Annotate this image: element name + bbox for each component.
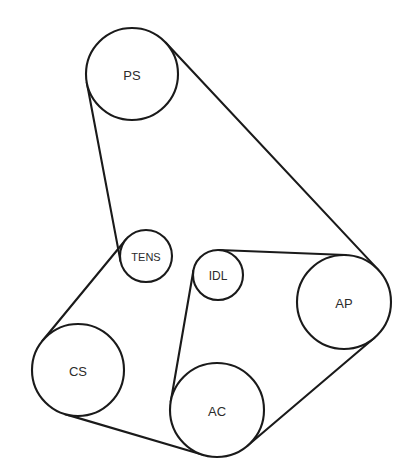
tensioner-pulley-label: TENS: [131, 251, 160, 263]
belt-idl-to-ap: [219, 250, 346, 255]
belt-routing-diagram: PSTENSIDLAPCSAC: [0, 0, 405, 472]
idler-pulley-label: IDL: [209, 269, 228, 283]
alternator-pulley-label: AP: [335, 296, 352, 311]
belt-ps-to-ap: [166, 43, 379, 270]
power-steering-pulley-label: PS: [123, 68, 141, 83]
air-conditioning-compressor-pulley-label: AC: [208, 404, 226, 419]
crankshaft-pulley-label: CS: [69, 364, 87, 379]
belt-ap-to-ac: [247, 338, 374, 446]
belt-diagram-canvas: PSTENSIDLAPCSAC: [0, 0, 405, 472]
